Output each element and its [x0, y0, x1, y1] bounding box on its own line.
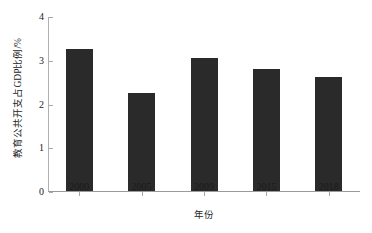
- x-axis-tick-label: 2005: [132, 182, 152, 192]
- x-axis-tick-label: 2015: [256, 182, 276, 192]
- y-axis-tick-label: 3: [39, 56, 44, 66]
- y-axis-tick-label: 2: [39, 100, 44, 110]
- y-axis-tick-mark: [49, 105, 53, 106]
- x-axis-tick-label: 2000: [69, 182, 89, 192]
- bar: [66, 49, 93, 191]
- y-axis-tick-labels: 01234: [28, 0, 44, 233]
- x-axis-tick-mark: [204, 192, 205, 196]
- bar: [128, 93, 155, 191]
- y-axis-tick-label: 4: [39, 12, 44, 22]
- y-axis-tick-mark: [49, 61, 53, 62]
- y-axis-tick-mark: [49, 17, 53, 18]
- y-axis-tick-label: 1: [39, 143, 44, 153]
- x-axis-tick-mark: [329, 192, 330, 196]
- x-axis-tick-label: 2018: [319, 182, 339, 192]
- x-axis-title: 年份: [48, 211, 360, 221]
- bar: [315, 77, 342, 191]
- x-axis-tick-mark: [79, 192, 80, 196]
- bar: [191, 58, 218, 191]
- x-axis-tick-label: 2009: [194, 182, 214, 192]
- plot-area: [48, 17, 360, 192]
- y-axis-tick-mark: [49, 192, 53, 193]
- x-axis-tick-mark: [266, 192, 267, 196]
- y-axis-tick-label: 0: [39, 187, 44, 197]
- bar: [253, 69, 280, 191]
- y-axis-title-text: 教育公共开支占GDP比例/%: [14, 38, 24, 158]
- bar-chart: 教育公共开支占GDP比例/% 01234 年份 2000200520092015…: [0, 0, 372, 233]
- y-axis-title: 教育公共开支占GDP比例/%: [10, 0, 28, 196]
- y-axis-tick-mark: [49, 148, 53, 149]
- x-axis-tick-mark: [142, 192, 143, 196]
